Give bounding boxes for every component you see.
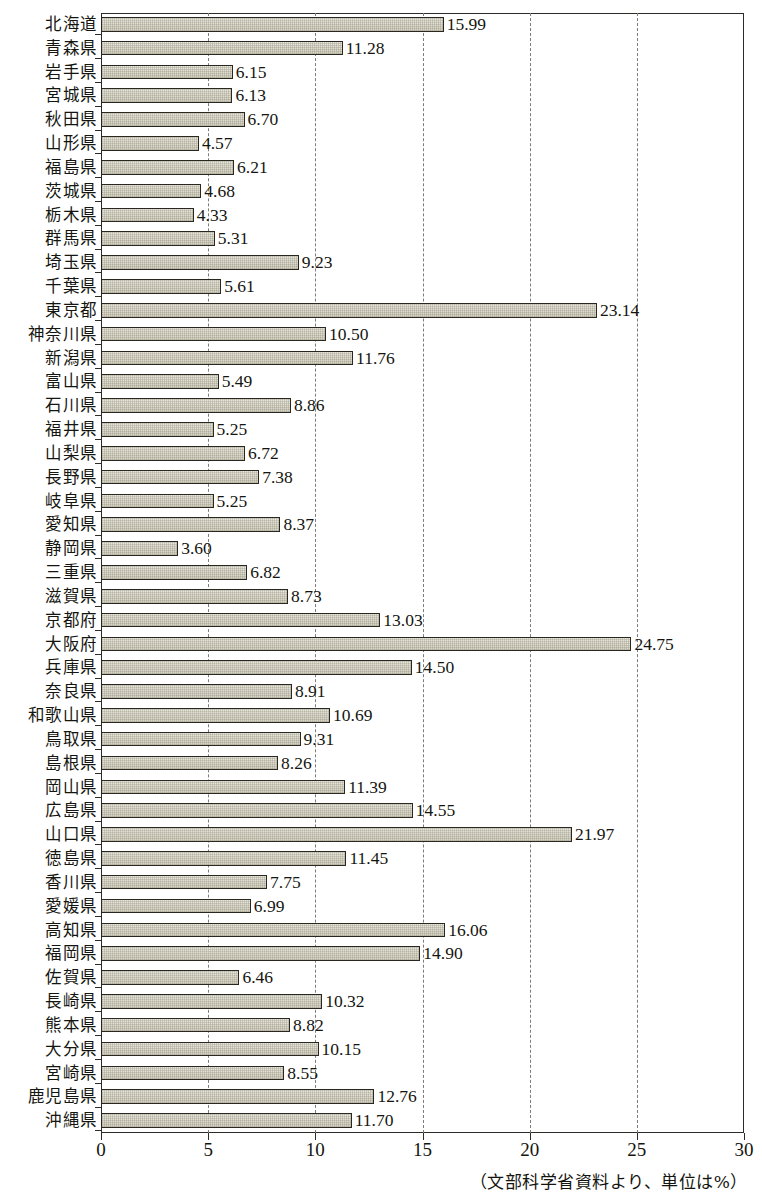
- bar: [101, 684, 292, 699]
- prefecture-label: 三重県: [45, 561, 97, 584]
- prefecture-label: 佐賀県: [45, 966, 97, 989]
- y-axis-tick: [95, 34, 101, 35]
- bar: [101, 446, 245, 461]
- bar-row: 岡山県11.39: [0, 776, 762, 799]
- bar-row: 宮城県6.13: [0, 84, 762, 107]
- bar-value-label: 6.72: [248, 443, 279, 464]
- prefecture-label: 島根県: [45, 752, 97, 775]
- bar-value-label: 9.31: [304, 729, 335, 750]
- bar: [101, 303, 597, 318]
- y-axis-tick: [95, 916, 101, 917]
- bar-value-label: 3.60: [181, 538, 212, 559]
- bar: [101, 112, 245, 127]
- y-axis-tick: [95, 940, 101, 941]
- bar-value-label: 5.61: [224, 276, 255, 297]
- bar: [101, 803, 413, 818]
- prefecture-label: 高知県: [45, 919, 97, 942]
- bar-row: 長野県7.38: [0, 466, 762, 489]
- bar-row: 大分県10.15: [0, 1038, 762, 1061]
- bar: [101, 1042, 319, 1057]
- prefecture-label: 広島県: [45, 799, 97, 822]
- bar-value-label: 5.31: [218, 228, 249, 249]
- bar-value-label: 6.82: [250, 562, 281, 583]
- bar-value-label: 4.57: [202, 133, 233, 154]
- bar-value-label: 7.38: [262, 467, 293, 488]
- bar-row: 埼玉県9.23: [0, 251, 762, 274]
- y-axis-tick: [95, 1011, 101, 1012]
- bar-row: 山形県4.57: [0, 132, 762, 155]
- bar-value-label: 8.26: [281, 753, 312, 774]
- bar-row: 栃木県4.33: [0, 204, 762, 227]
- x-tick-label: 10: [285, 1139, 345, 1161]
- bar-row: 青森県11.28: [0, 37, 762, 60]
- bar-value-label: 6.99: [254, 896, 285, 917]
- y-axis-tick: [95, 82, 101, 83]
- prefecture-label: 滋賀県: [45, 585, 97, 608]
- bar-value-label: 8.82: [293, 1015, 324, 1036]
- x-tick-label: 20: [500, 1139, 560, 1161]
- bar-value-label: 6.21: [237, 157, 268, 178]
- prefecture-label: 石川県: [45, 394, 97, 417]
- bar-value-label: 13.03: [383, 610, 422, 631]
- bar-value-label: 5.25: [217, 491, 248, 512]
- bar: [101, 231, 215, 246]
- bar: [101, 780, 345, 795]
- bar-value-label: 9.23: [302, 252, 333, 273]
- prefecture-label: 大阪府: [45, 633, 97, 656]
- y-axis-tick: [95, 1130, 101, 1131]
- bar: [101, 637, 631, 652]
- y-axis-tick: [95, 487, 101, 488]
- bar-value-label: 15.99: [447, 14, 486, 35]
- y-axis-tick: [95, 582, 101, 583]
- bar-row: 神奈川県10.50: [0, 323, 762, 346]
- y-axis-tick: [95, 463, 101, 464]
- y-axis-tick: [95, 1059, 101, 1060]
- y-axis-tick: [95, 1083, 101, 1084]
- bar: [101, 88, 232, 103]
- prefecture-label: 千葉県: [45, 275, 97, 298]
- bar-value-label: 4.68: [204, 181, 235, 202]
- bar: [101, 160, 234, 175]
- prefecture-label: 兵庫県: [45, 656, 97, 679]
- y-axis-tick: [95, 654, 101, 655]
- prefecture-label: 福島県: [45, 156, 97, 179]
- prefecture-label: 宮城県: [45, 84, 97, 107]
- bar-row: 奈良県8.91: [0, 680, 762, 703]
- y-axis-tick: [95, 439, 101, 440]
- prefecture-label: 長野県: [45, 466, 97, 489]
- y-axis-tick: [95, 272, 101, 273]
- prefecture-label: 徳島県: [45, 847, 97, 870]
- prefecture-label: 福岡県: [45, 942, 97, 965]
- y-axis-tick: [95, 678, 101, 679]
- y-axis-tick: [95, 201, 101, 202]
- bar-row: 三重県6.82: [0, 561, 762, 584]
- bar: [101, 41, 343, 56]
- bar-value-label: 23.14: [600, 300, 639, 321]
- bar: [101, 589, 288, 604]
- bar: [101, 374, 219, 389]
- bar-rows: 北海道15.99青森県11.28岩手県6.15宮城県6.13秋田県6.70山形県…: [0, 13, 762, 1133]
- prefecture-label: 山梨県: [45, 442, 97, 465]
- source-note: （文部科学省資料より、単位は%）: [0, 1168, 748, 1193]
- y-axis-tick: [95, 344, 101, 345]
- bar-row: 福岡県14.90: [0, 942, 762, 965]
- bar-row: 兵庫県14.50: [0, 656, 762, 679]
- bar: [101, 613, 380, 628]
- prefecture-label: 秋田県: [45, 108, 97, 131]
- x-tick-label: 5: [178, 1139, 238, 1161]
- y-axis-tick: [95, 892, 101, 893]
- bar-value-label: 5.49: [222, 371, 253, 392]
- prefecture-label: 宮崎県: [45, 1062, 97, 1085]
- bar: [101, 756, 278, 771]
- prefecture-label: 埼玉県: [45, 251, 97, 274]
- bar-row: 山梨県6.72: [0, 442, 762, 465]
- bar: [101, 994, 322, 1009]
- bar: [101, 923, 445, 938]
- bar-row: 福井県5.25: [0, 418, 762, 441]
- prefecture-label: 大分県: [45, 1038, 97, 1061]
- bar-value-label: 10.15: [322, 1039, 361, 1060]
- bar-row: 鳥取県9.31: [0, 728, 762, 751]
- bar: [101, 351, 353, 366]
- bar-row: 滋賀県8.73: [0, 585, 762, 608]
- prefecture-label: 茨城県: [45, 180, 97, 203]
